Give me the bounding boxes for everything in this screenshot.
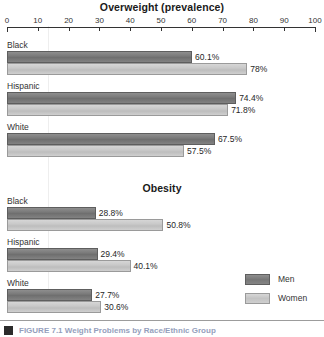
bar-value-label: 27.7% <box>95 290 119 300</box>
bar-row: 67.5% <box>7 133 315 145</box>
bar-value-label: 60.1% <box>195 52 219 62</box>
bar-men <box>7 51 192 63</box>
bar-group-label: White <box>7 122 29 132</box>
axis-tick <box>38 27 39 31</box>
bar-group: Hispanic29.4%40.1% <box>7 237 315 272</box>
bar-row: 74.4% <box>7 92 315 104</box>
bar-women <box>7 301 101 313</box>
axis-tick <box>315 27 316 32</box>
weight-problems-chart: Overweight (prevalence) 0102030405060708… <box>0 0 324 337</box>
axis-tick-label: 10 <box>33 16 42 25</box>
axis-tick-label: 60 <box>187 16 196 25</box>
axis-tick <box>99 27 100 31</box>
bar-group: Black28.8%50.8% <box>7 196 315 231</box>
bar-row: 28.8% <box>7 207 315 219</box>
axis-tick-label: 40 <box>126 16 135 25</box>
axis-tick-label: 30 <box>95 16 104 25</box>
panel-title-overweight: Overweight (prevalence) <box>0 1 324 13</box>
bar-row: 71.8% <box>7 104 315 116</box>
bar-row: 40.1% <box>7 260 315 272</box>
bar-value-label: 74.4% <box>239 93 263 103</box>
legend-item-men: Men <box>245 274 315 285</box>
bar-value-label: 78% <box>250 64 267 74</box>
bar-women <box>7 219 163 231</box>
axis-tick-label: 20 <box>64 16 73 25</box>
bar-value-label: 30.6% <box>104 302 128 312</box>
axis-tick <box>130 27 131 31</box>
bar-value-label: 50.8% <box>166 220 190 230</box>
axis-tick <box>192 27 193 31</box>
bar-value-label: 40.1% <box>134 261 158 271</box>
bar-group-label: Black <box>7 40 28 50</box>
axis-tick-label: 70 <box>218 16 227 25</box>
bar-group: White67.5%57.5% <box>7 122 315 157</box>
bar-men <box>7 133 215 145</box>
axis-tick-label: 50 <box>157 16 166 25</box>
bar-women <box>7 104 228 116</box>
bar-women <box>7 260 131 272</box>
figure-caption: FIGURE 7.1 Weight Problems by Race/Ethni… <box>0 325 324 337</box>
legend-swatch-men <box>245 274 270 285</box>
legend-label: Men <box>278 274 295 284</box>
axis-tick-label: 0 <box>5 16 9 25</box>
axis-tick-label: 90 <box>280 16 289 25</box>
bar-women <box>7 145 184 157</box>
bar-row: 57.5% <box>7 145 315 157</box>
legend-swatch-women <box>245 293 270 304</box>
bar-row: 60.1% <box>7 51 315 63</box>
axis-tick <box>284 27 285 31</box>
bar-value-label: 67.5% <box>218 134 242 144</box>
bar-women <box>7 63 247 75</box>
bar-men <box>7 207 96 219</box>
caption-text: FIGURE 7.1 Weight Problems by Race/Ethni… <box>19 326 216 335</box>
bar-row: 78% <box>7 63 315 75</box>
bar-row: 29.4% <box>7 248 315 260</box>
bar-value-label: 29.4% <box>101 249 125 259</box>
bar-men <box>7 248 98 260</box>
bar-value-label: 28.8% <box>99 208 123 218</box>
bar-group-label: White <box>7 278 29 288</box>
axis-tick-label: 80 <box>249 16 258 25</box>
axis-tick-label: 100 <box>308 16 321 25</box>
footer-divider <box>0 320 324 321</box>
bar-group: Black60.1%78% <box>7 40 315 75</box>
bar-men <box>7 92 236 104</box>
axis-tick <box>69 27 70 31</box>
bar-value-label: 57.5% <box>187 146 211 156</box>
bar-group-label: Hispanic <box>7 81 40 91</box>
axis-tick <box>223 27 224 31</box>
axis-tick <box>7 27 8 32</box>
bar-value-label: 71.8% <box>231 105 255 115</box>
bar-men <box>7 289 92 301</box>
caption-marker-icon <box>4 326 13 335</box>
legend-item-women: Women <box>245 293 315 304</box>
axis-tick <box>253 27 254 31</box>
bar-group-label: Hispanic <box>7 237 40 247</box>
bar-group: Hispanic74.4%71.8% <box>7 81 315 116</box>
bar-group-label: Black <box>7 196 28 206</box>
bar-row: 50.8% <box>7 219 315 231</box>
x-axis: 0102030405060708090100 <box>7 16 315 30</box>
axis-tick <box>161 27 162 31</box>
panel-title-obesity: Obesity <box>0 182 324 194</box>
legend-label: Women <box>278 293 307 303</box>
